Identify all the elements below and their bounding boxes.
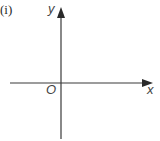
- y-axis-arrow-icon: [57, 7, 65, 18]
- coordinate-axes-diagram: (i) y x O: [0, 0, 160, 141]
- axes-svg: [0, 0, 160, 141]
- y-axis-label: y: [48, 2, 55, 15]
- origin-label: O: [46, 83, 56, 96]
- x-axis-label: x: [147, 83, 154, 96]
- part-label: (i): [0, 3, 12, 16]
